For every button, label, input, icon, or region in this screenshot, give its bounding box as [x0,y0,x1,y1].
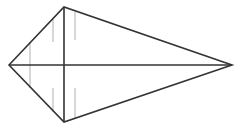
kite-diagram [0,0,238,131]
